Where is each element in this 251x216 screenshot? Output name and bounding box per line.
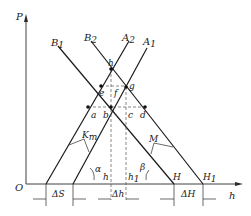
h-axis-arrow-icon: [235, 182, 243, 186]
p-axis-arrow-icon: [24, 14, 28, 22]
m-leader: [151, 143, 173, 154]
point-d: d: [140, 110, 146, 120]
dim-ds-label: ΔS: [51, 189, 65, 199]
alpha-arc: [90, 168, 94, 180]
m-label: M: [148, 134, 159, 144]
dim-dh-label: Δh: [111, 189, 124, 199]
axis-point-h: h: [103, 172, 109, 182]
point-h: h: [108, 58, 114, 68]
dim-dH-label: ΔH: [180, 189, 195, 199]
beta-arc: [146, 170, 149, 180]
point-e: e: [99, 88, 104, 98]
label-b2: B2: [83, 32, 97, 45]
h-axis-label: h: [229, 190, 235, 201]
load-deflection-diagram: P h O B1 B2 A2 A1 h e f g a b c d Km M α…: [0, 0, 251, 216]
km-leader: [69, 139, 89, 152]
point-g: g: [129, 81, 135, 91]
alpha-label: α: [95, 164, 101, 174]
origin-label: O: [15, 182, 23, 193]
line-b1: [58, 46, 174, 184]
axis-point-h1: h1: [128, 172, 140, 184]
main-lines: [46, 41, 203, 184]
point-a: a: [91, 110, 96, 120]
axis-point-H: H: [172, 172, 181, 182]
label-a1: A1: [142, 36, 156, 49]
km-label: Km: [81, 130, 97, 142]
axis-point-H1: H1: [202, 172, 217, 184]
beta-label: β: [139, 162, 145, 172]
p-axis-label: P: [15, 11, 23, 22]
line-a2: [46, 41, 129, 184]
point-f: f: [113, 88, 119, 98]
label-b1: B1: [50, 37, 64, 50]
point-c: c: [128, 110, 133, 120]
point-b: b: [103, 110, 109, 120]
